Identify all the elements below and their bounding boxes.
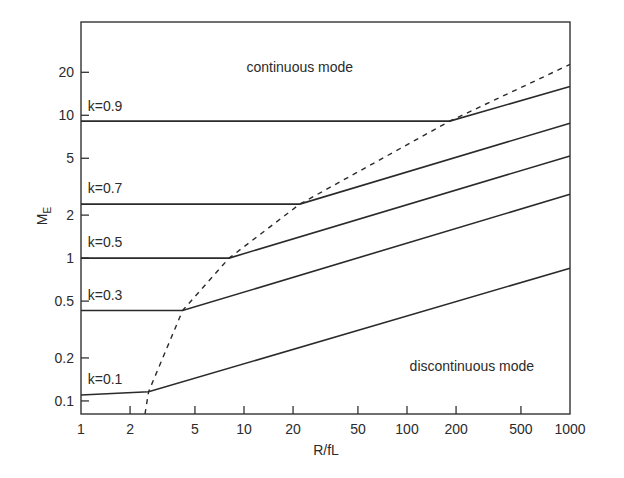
- x-tick-label: 20: [285, 421, 301, 437]
- series-label: k=0.5: [88, 234, 123, 250]
- svg-text:ME: ME: [34, 207, 53, 226]
- y-tick-label: 2: [66, 207, 74, 223]
- series-label: k=0.9: [88, 98, 123, 114]
- region-annotation: continuous mode: [246, 59, 353, 75]
- series-label: k=0.1: [88, 371, 123, 387]
- y-tick-label: 1: [66, 250, 74, 266]
- k-curve-line: [81, 87, 570, 122]
- k-curve-line: [81, 194, 570, 310]
- series-labels: k=0.9k=0.7k=0.5k=0.3k=0.1: [88, 98, 123, 387]
- y-tick-label: 20: [58, 64, 74, 80]
- plot-frame: [81, 22, 570, 414]
- series-label: k=0.3: [88, 287, 123, 303]
- y-tick-label: 5: [66, 150, 74, 166]
- y-tick-label: 0.1: [55, 393, 75, 409]
- y-tick-label: 0.5: [55, 293, 75, 309]
- y-tick-label: 10: [58, 107, 74, 123]
- x-tick-label: 500: [509, 421, 533, 437]
- y-axis-label-main: M: [34, 214, 50, 226]
- annotations: continuous modediscontinuous mode: [246, 59, 534, 373]
- y-axis-label: ME: [34, 207, 53, 226]
- k-curve-line: [81, 156, 570, 258]
- x-tick-label: 2: [126, 421, 134, 437]
- y-axis-label-subscript: E: [42, 207, 53, 214]
- chart: 1251020501002005001000 0.10.20.51251020 …: [0, 0, 624, 478]
- x-tick-label: 100: [395, 421, 419, 437]
- k-curve-line: [81, 268, 570, 395]
- x-axis-label: R/fL: [313, 442, 339, 458]
- region-annotation: discontinuous mode: [410, 358, 535, 374]
- x-axis-ticks: 1251020501002005001000: [77, 406, 586, 437]
- y-tick-label: 0.2: [55, 350, 75, 366]
- y-axis-ticks: 0.10.20.51251020: [55, 64, 89, 409]
- x-tick-label: 200: [444, 421, 468, 437]
- x-tick-label: 1: [77, 421, 85, 437]
- k-curve-line: [81, 123, 570, 204]
- x-tick-label: 5: [191, 421, 199, 437]
- x-tick-label: 50: [350, 421, 366, 437]
- series-label: k=0.7: [88, 180, 123, 196]
- x-tick-label: 10: [236, 421, 252, 437]
- x-tick-label: 1000: [554, 421, 585, 437]
